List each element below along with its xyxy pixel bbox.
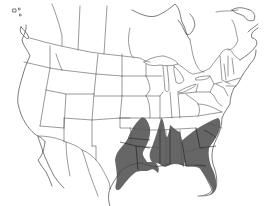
range-map	[0, 0, 265, 206]
ontario-quebec-border	[190, 40, 204, 72]
newfoundland	[232, 8, 255, 21]
pacific-coast	[18, 25, 45, 142]
range-east-lobe	[180, 118, 220, 196]
north-america-map	[0, 0, 265, 206]
sask-manitoba-border	[104, 6, 107, 54]
lake-huron	[174, 66, 184, 83]
us-mexico-border	[38, 136, 110, 189]
new-england-borders	[226, 56, 240, 86]
hudson-bay-shore	[132, 4, 190, 40]
mexico-gulf-coast	[109, 189, 111, 206]
state-borders-west	[24, 46, 130, 146]
baja-coast	[38, 137, 64, 188]
alberta-sask-border	[78, 6, 80, 50]
lake-erie	[178, 84, 196, 93]
mexico-state-borders	[66, 142, 98, 196]
lake-superior	[144, 56, 178, 66]
haida-gwaii	[13, 8, 22, 16]
great-lakes	[144, 56, 210, 93]
bc-alberta-border	[52, 4, 62, 46]
lake-ontario	[196, 76, 210, 80]
quebec-labrador	[216, 10, 238, 50]
lake-michigan	[163, 66, 169, 92]
manitoba-ontario-border	[129, 28, 135, 58]
coastlines	[13, 4, 258, 206]
